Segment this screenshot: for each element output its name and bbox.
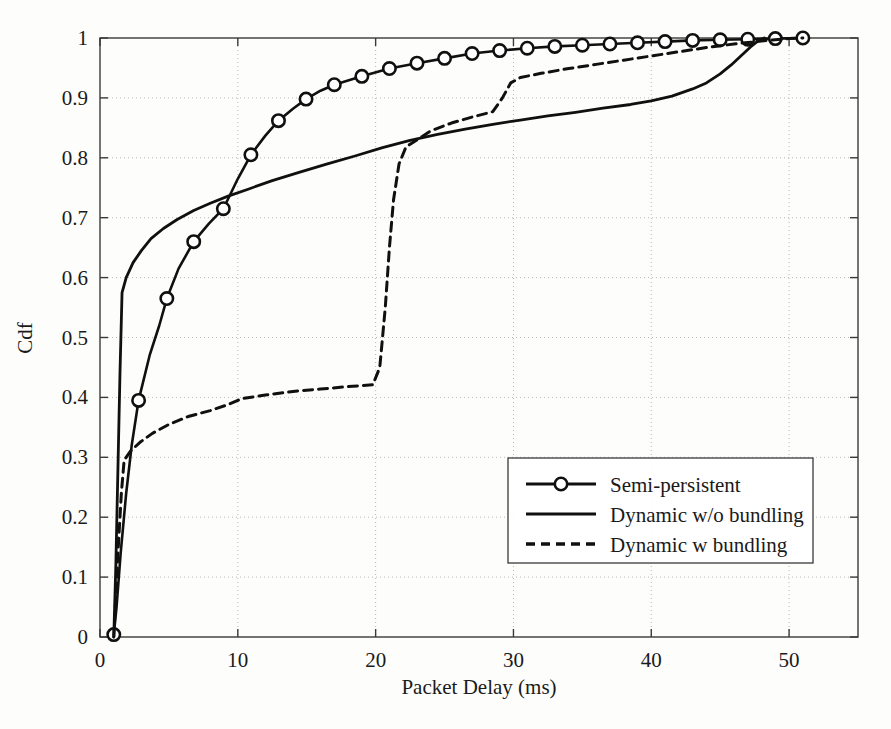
y-tick-label: 0.7 [62,206,88,230]
x-tick-label: 30 [503,648,524,672]
series-marker [493,44,505,56]
series-marker [356,70,368,82]
series-marker [161,292,173,304]
legend-swatch-marker-icon [555,478,567,490]
series-marker [438,52,450,64]
series-marker [604,38,616,50]
y-tick-label: 1 [78,26,89,50]
y-tick-label: 0.2 [62,505,88,529]
chart-legend: Semi-persistentDynamic w/o bundlingDynam… [508,458,813,563]
series-marker [686,34,698,46]
series-marker [245,149,257,161]
series-marker [466,47,478,59]
series-marker [714,34,726,46]
series-marker [300,93,312,105]
x-tick-label: 50 [779,648,800,672]
y-tick-label: 0.1 [62,565,88,589]
series-marker [383,62,395,74]
series-marker [132,394,144,406]
legend-label: Dynamic w/o bundling [610,503,804,527]
y-tick-label: 0.4 [62,385,89,409]
series-marker [549,40,561,52]
x-tick-label: 40 [641,648,662,672]
series-marker [188,235,200,247]
chart-figure: 01020304050 00.10.20.30.40.50.60.70.80.9… [0,0,891,729]
series-marker [631,37,643,49]
y-tick-label: 0.5 [62,326,88,350]
series-marker [576,39,588,51]
legend-label: Semi-persistent [610,473,741,497]
y-tick-label: 0.8 [62,146,88,170]
x-axis-title: Packet Delay (ms) [401,675,556,699]
series-marker [328,79,340,91]
x-tick-labels: 01020304050 [95,648,800,672]
y-tick-labels: 00.10.20.30.40.50.60.70.80.91 [62,26,89,649]
x-tick-label: 20 [365,648,386,672]
y-tick-label: 0.9 [62,86,88,110]
y-tick-label: 0.6 [62,266,88,290]
series-marker [411,57,423,69]
series-marker [217,203,229,215]
x-tick-label: 0 [95,648,106,672]
y-axis-title: Cdf [13,322,37,354]
x-tick-label: 10 [227,648,248,672]
series-marker [272,114,284,126]
series-marker [521,42,533,54]
legend-label: Dynamic w bundling [610,533,788,557]
series-marker [659,35,671,47]
y-tick-label: 0 [78,625,89,649]
cdf-line-chart: 01020304050 00.10.20.30.40.50.60.70.80.9… [0,0,891,729]
y-tick-label: 0.3 [62,445,88,469]
